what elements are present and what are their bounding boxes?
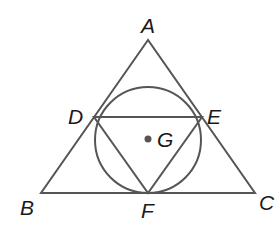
label-b: B <box>20 196 34 219</box>
label-d: D <box>68 105 83 128</box>
label-e: E <box>207 105 222 128</box>
label-a: A <box>139 14 155 37</box>
label-f: F <box>141 199 155 222</box>
geometry-diagram: A B C D E F G <box>0 0 280 226</box>
label-c: C <box>259 191 275 214</box>
label-g: G <box>157 128 173 151</box>
point-g-dot <box>145 136 152 143</box>
triangle-def <box>94 117 202 193</box>
